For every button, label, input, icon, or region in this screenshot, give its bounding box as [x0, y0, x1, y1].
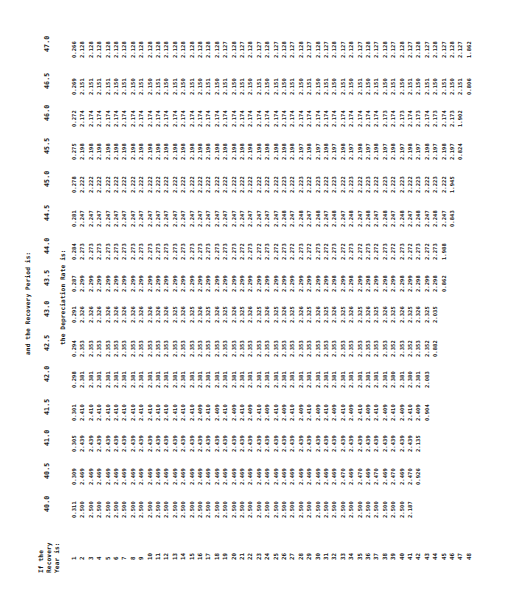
rate-cell: 2.247	[155, 210, 161, 227]
rate-cell: 2.381	[340, 371, 346, 388]
rate-cell: 0.278	[71, 176, 77, 193]
rate-cell: 2.326	[399, 306, 405, 323]
rate-cell: 2.439	[357, 435, 363, 452]
rate-cell: 2.381	[147, 371, 153, 388]
rate-cell: 2.353	[331, 340, 337, 357]
rate-cell: 2.439	[273, 435, 279, 452]
rate-cell: 2.128	[88, 41, 94, 58]
rate-cell: 2.198	[172, 143, 178, 160]
rate-cell: 0.294	[71, 340, 77, 357]
rate-cell: 2.198	[424, 143, 430, 160]
rate-cell: 2.353	[281, 340, 287, 357]
rate-cell: 2.299	[357, 275, 363, 292]
rate-cell: 2.247	[88, 210, 94, 227]
rate-cell: 2.500	[256, 501, 262, 518]
rate-cell: 2.222	[357, 176, 363, 193]
rate-cell: 2.198	[239, 143, 245, 160]
rate-cell: 2.410	[390, 404, 396, 421]
row-label-year: 48	[466, 553, 472, 560]
rate-cell: 2.150	[331, 78, 337, 95]
rate-cell: 2.174	[247, 110, 253, 127]
rate-cell: 2.247	[256, 210, 262, 227]
rate-cell: 2.197	[415, 143, 421, 160]
rate-cell: 2.439	[155, 435, 161, 452]
row-label-year: 20	[231, 553, 237, 560]
rate-cell: 2.150	[247, 78, 253, 95]
row-label-year: 43	[424, 553, 430, 560]
rate-cell: 2.198	[231, 143, 237, 160]
rate-cell: 2.439	[147, 435, 153, 452]
rate-cell: 2.469	[214, 468, 220, 485]
column-header-period: 43.5	[44, 270, 50, 286]
rate-cell: 2.469	[348, 468, 354, 485]
rate-cell: 2.353	[365, 340, 371, 357]
rate-cell: 2.299	[79, 275, 85, 292]
rate-cell: 2.353	[88, 340, 94, 357]
rate-cell: 2.381	[273, 371, 279, 388]
rate-cell: 2.326	[113, 306, 119, 323]
rate-cell: 2.247	[340, 210, 346, 227]
rate-cell: 2.198	[273, 143, 279, 160]
rate-cell: 2.273	[247, 243, 253, 260]
rate-cell: 2.247	[323, 210, 329, 227]
rate-cell: 2.273	[155, 243, 161, 260]
rate-cell: 2.470	[340, 468, 346, 485]
rate-cell: 2.150	[197, 78, 203, 95]
row-label-year: 16	[197, 553, 203, 560]
rate-cell: 2.326	[264, 306, 270, 323]
rate-cell: 2.128	[205, 41, 211, 58]
rate-cell: 2.151	[457, 78, 463, 95]
rate-cell: 2.410	[163, 404, 169, 421]
rate-cell: 2.299	[306, 275, 312, 292]
rate-cell: 2.409	[348, 404, 354, 421]
rate-cell: 2.410	[189, 404, 195, 421]
rate-cell: 2.439	[399, 435, 405, 452]
row-label-year: 7	[121, 556, 127, 560]
column-header-period: 42.5	[44, 335, 50, 351]
rate-cell: 2.500	[121, 501, 127, 518]
rate-cell: 2.127	[340, 41, 346, 58]
rate-cell: 2.381	[155, 371, 161, 388]
rate-cell: 2.222	[113, 176, 119, 193]
rate-cell: 2.469	[88, 468, 94, 485]
row-label-year: 33	[340, 553, 346, 560]
rate-cell: 2.439	[323, 435, 329, 452]
rate-cell: 2.410	[130, 404, 136, 421]
rate-cell: 2.500	[214, 501, 220, 518]
rate-cell: 2.198	[323, 143, 329, 160]
row-label-year: 42	[415, 553, 421, 560]
rate-cell: 2.248	[382, 210, 388, 227]
rate-cell: 2.326	[121, 306, 127, 323]
row-label-year: 32	[331, 553, 337, 560]
rate-cell: 2.198	[390, 143, 396, 160]
rate-cell: 2.410	[88, 404, 94, 421]
rate-cell: 2.353	[340, 340, 346, 357]
rate-cell: 2.273	[197, 243, 203, 260]
rate-cell: 2.500	[147, 501, 153, 518]
rate-cell: 2.247	[163, 210, 169, 227]
rate-cell: 2.410	[373, 404, 379, 421]
row-label-year: 13	[172, 553, 178, 560]
rate-cell: 2.197	[331, 143, 337, 160]
rate-cell: 2.223	[281, 176, 287, 193]
rate-cell: 0.311	[71, 501, 77, 518]
rate-cell: 2.128	[121, 41, 127, 58]
rate-cell: 2.128	[130, 41, 136, 58]
rate-cell: 2.150	[449, 78, 455, 95]
rate-cell: 2.381	[298, 371, 304, 388]
rate-cell: 2.299	[147, 275, 153, 292]
rate-cell: 2.174	[147, 110, 153, 127]
rate-cell: 2.248	[281, 210, 287, 227]
column-header-period: 45.0	[44, 171, 50, 187]
column-header-period: 47.0	[44, 36, 50, 52]
row-label-year: 27	[289, 553, 295, 560]
rate-cell: 2.247	[205, 210, 211, 227]
rate-cell: 2.500	[331, 501, 337, 518]
rate-cell: 0.291	[71, 306, 77, 323]
rate-cell: 2.470	[407, 468, 413, 485]
rate-cell: 2.198	[130, 143, 136, 160]
rate-cell: 2.222	[407, 176, 413, 193]
rate-cell: 2.127	[289, 41, 295, 58]
rate-cell: 2.381	[415, 371, 421, 388]
rate-cell: 2.222	[247, 176, 253, 193]
